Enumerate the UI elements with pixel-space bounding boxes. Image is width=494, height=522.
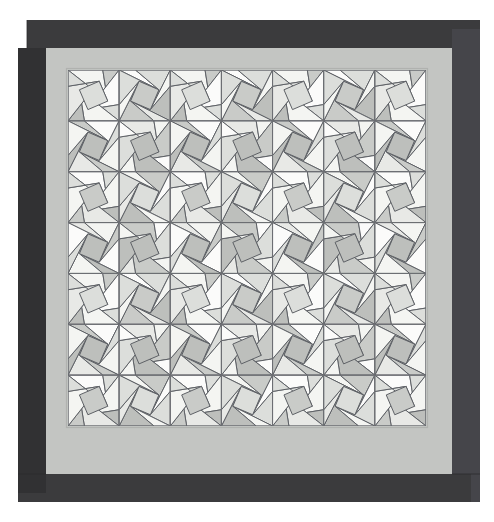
kaleidoscope-block: [170, 172, 221, 223]
kaleidoscope-block: [170, 375, 221, 426]
kaleidoscope-block: [170, 70, 221, 121]
kaleidoscope-block: [221, 223, 272, 274]
kaleidoscope-block: [273, 273, 324, 324]
kaleidoscope-block: [324, 70, 375, 121]
kaleidoscope-block: [170, 324, 221, 375]
kaleidoscope-block: [324, 172, 375, 223]
kaleidoscope-block: [119, 273, 170, 324]
kaleidoscope-block: [221, 273, 272, 324]
kaleidoscope-block: [375, 375, 426, 426]
kaleidoscope-block: [68, 172, 119, 223]
kaleidoscope-block: [68, 324, 119, 375]
kaleidoscope-block: [221, 70, 272, 121]
kaleidoscope-block: [68, 375, 119, 426]
kaleidoscope-block: [375, 223, 426, 274]
kaleidoscope-block: [68, 273, 119, 324]
binding-right: [452, 29, 480, 502]
kaleidoscope-block: [273, 70, 324, 121]
kaleidoscope-block: [273, 121, 324, 172]
kaleidoscope-block: [273, 324, 324, 375]
kaleidoscope-block: [324, 375, 375, 426]
kaleidoscope-block: [324, 324, 375, 375]
kaleidoscope-block: [170, 273, 221, 324]
kaleidoscope-block: [170, 223, 221, 274]
kaleidoscope-block: [221, 375, 272, 426]
quilt-canvas: [0, 0, 494, 522]
kaleidoscope-block: [119, 223, 170, 274]
pattern-field: [68, 70, 426, 426]
kaleidoscope-block: [119, 324, 170, 375]
binding-top: [27, 20, 480, 48]
kaleidoscope-block: [68, 70, 119, 121]
kaleidoscope-block: [375, 121, 426, 172]
kaleidoscope-block: [119, 172, 170, 223]
kaleidoscope-block: [273, 375, 324, 426]
kaleidoscope-block: [375, 70, 426, 121]
binding-left: [18, 48, 46, 493]
kaleidoscope-block: [119, 121, 170, 172]
kaleidoscope-block: [119, 70, 170, 121]
kaleidoscope-block: [221, 172, 272, 223]
quilt-artwork: [0, 0, 494, 522]
binding-bottom: [18, 474, 471, 502]
kaleidoscope-block: [375, 172, 426, 223]
kaleidoscope-block: [170, 121, 221, 172]
kaleidoscope-block: [324, 121, 375, 172]
kaleidoscope-block: [119, 375, 170, 426]
kaleidoscope-block: [221, 121, 272, 172]
kaleidoscope-block: [68, 121, 119, 172]
kaleidoscope-block: [375, 273, 426, 324]
kaleidoscope-block: [324, 223, 375, 274]
kaleidoscope-block: [273, 172, 324, 223]
kaleidoscope-block: [68, 223, 119, 274]
kaleidoscope-block: [324, 273, 375, 324]
kaleidoscope-block: [221, 324, 272, 375]
kaleidoscope-block: [375, 324, 426, 375]
kaleidoscope-block: [273, 223, 324, 274]
